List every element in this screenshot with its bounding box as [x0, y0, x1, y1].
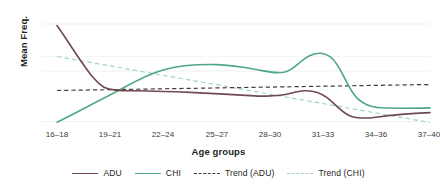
legend-swatch-trend-chi: [287, 173, 313, 174]
legend-item-trend-adu[interactable]: Trend (ADU): [194, 168, 275, 178]
legend-item-trend-chi[interactable]: Trend (CHI): [287, 168, 364, 178]
series-chi: [57, 53, 430, 122]
series-adu: [57, 26, 430, 119]
x-tick-2: 22–24: [152, 130, 175, 139]
x-tick-1: 19–21: [99, 130, 122, 139]
legend-item-adu[interactable]: ADU: [72, 168, 121, 178]
x-axis-label: Age groups: [0, 146, 437, 157]
x-axis-ticks: 16–18 19–21 22–24 25–27 28–30 31–33 34–3…: [42, 130, 430, 142]
legend-label-adu: ADU: [103, 168, 121, 178]
legend-swatch-adu: [72, 173, 98, 174]
legend-swatch-chi: [135, 173, 161, 174]
legend-label-trend-chi: Trend (CHI): [318, 168, 364, 178]
x-tick-0: 16–18: [46, 130, 69, 139]
x-tick-6: 34–36: [365, 130, 388, 139]
chart-legend: ADU CHI Trend (ADU) Trend (CHI): [0, 168, 437, 178]
x-tick-7: 37–40: [418, 130, 440, 139]
x-tick-5: 31–33: [312, 130, 335, 139]
legend-label-chi: CHI: [166, 168, 181, 178]
legend-label-trend-adu: Trend (ADU): [225, 168, 275, 178]
y-axis-label: Mean Freq.: [18, 0, 29, 87]
x-tick-4: 28–30: [259, 130, 282, 139]
legend-item-chi[interactable]: CHI: [135, 168, 181, 178]
legend-swatch-trend-adu: [194, 173, 220, 174]
x-tick-3: 25–27: [206, 130, 229, 139]
